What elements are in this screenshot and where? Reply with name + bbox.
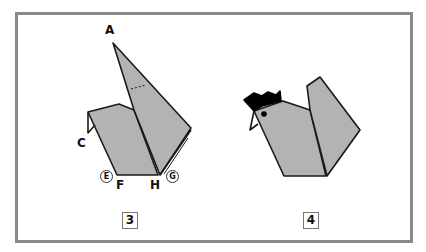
step-number-4: 4 — [303, 212, 319, 229]
point-label-f: F — [116, 178, 124, 192]
origami-illustration — [0, 0, 426, 252]
point-label-g: G — [166, 170, 179, 183]
step-number-3: 3 — [122, 212, 138, 229]
point-label-a: A — [105, 23, 114, 37]
point-label-h: H — [150, 178, 160, 192]
step4-figure — [244, 77, 360, 176]
point-label-e: E — [100, 170, 113, 183]
point-label-c: C — [77, 136, 86, 150]
step3-figure — [88, 43, 191, 175]
